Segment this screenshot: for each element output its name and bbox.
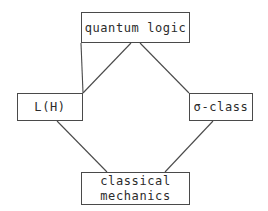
node-classical-mechanics[interactable]: classical mechanics — [81, 172, 190, 205]
edge-quantum-logic-to-lh-visible — [83, 43, 131, 93]
diagram-canvas: quantum logic L(H) σ-class classical mec… — [0, 0, 268, 211]
node-quantum-logic[interactable]: quantum logic — [81, 12, 190, 43]
edge-quantum-logic-to-lh — [81, 43, 83, 93]
node-quantum-logic-label: quantum logic — [85, 21, 187, 35]
edge-lh-to-classical-mechanics — [57, 121, 107, 172]
node-classical-mechanics-label: classical mechanics — [100, 174, 170, 204]
edge-sigma-class-to-classical-mechanics — [165, 121, 213, 172]
node-sigma-class[interactable]: σ-class — [189, 93, 253, 121]
node-lh[interactable]: L(H) — [17, 93, 83, 121]
edge-quantum-logic-to-sigma-class — [140, 43, 189, 93]
node-lh-label: L(H) — [34, 100, 65, 114]
node-sigma-class-label: σ-class — [194, 100, 249, 114]
